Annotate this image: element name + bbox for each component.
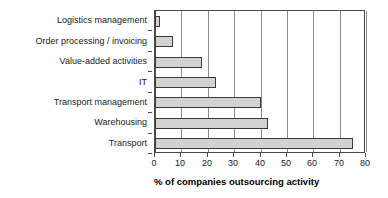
x-tick-label: 20 xyxy=(202,158,212,168)
bar-row xyxy=(155,117,364,129)
category-tick xyxy=(148,51,152,52)
category-tick xyxy=(148,112,152,113)
bar-row xyxy=(155,36,364,48)
x-tick-30 xyxy=(233,153,234,157)
category-axis-labels: Logistics managementOrder processing / i… xyxy=(0,10,151,153)
x-tick-40 xyxy=(260,153,261,157)
x-tick-10 xyxy=(180,153,181,157)
x-tick-50 xyxy=(286,153,287,157)
x-tick-20 xyxy=(207,153,208,157)
bar-chart-figure: Logistics managementOrder processing / i… xyxy=(0,0,388,198)
bar-row xyxy=(155,97,364,109)
bar-row xyxy=(155,15,364,27)
bar xyxy=(155,36,173,47)
bars-series xyxy=(155,11,364,152)
category-label: Transport management xyxy=(54,97,147,107)
x-tick-0 xyxy=(154,153,155,157)
category-tick xyxy=(148,71,152,72)
bar xyxy=(155,16,160,27)
x-tick-label: 0 xyxy=(151,158,156,168)
x-tick-80 xyxy=(365,153,366,157)
bar-row xyxy=(155,77,364,89)
x-tick-60 xyxy=(312,153,313,157)
x-tick-label: 70 xyxy=(334,158,344,168)
gridline-80 xyxy=(366,11,367,152)
category-label: Value-added activities xyxy=(60,56,147,66)
category-tick xyxy=(148,30,152,31)
category-label: IT xyxy=(139,77,147,87)
x-tick-label: 30 xyxy=(228,158,238,168)
bar xyxy=(155,138,353,149)
x-tick-70 xyxy=(339,153,340,157)
bar xyxy=(155,118,268,129)
category-label: Order processing / invoicing xyxy=(35,36,147,46)
x-tick-label: 80 xyxy=(360,158,370,168)
x-axis-title: % of companies outsourcing activity xyxy=(154,176,388,187)
category-tick xyxy=(148,133,152,134)
category-label: Transport xyxy=(109,138,147,148)
x-tick-label: 50 xyxy=(281,158,291,168)
category-label: Warehousing xyxy=(94,117,147,127)
x-tick-label: 60 xyxy=(307,158,317,168)
plot-area xyxy=(154,10,365,153)
category-label: Logistics management xyxy=(57,15,147,25)
bar xyxy=(155,97,261,108)
bar xyxy=(155,77,216,88)
x-tick-label: 10 xyxy=(175,158,185,168)
bar-row xyxy=(155,138,364,150)
category-tick xyxy=(148,153,152,154)
x-tick-label: 40 xyxy=(255,158,265,168)
x-axis: 01020304050607080 xyxy=(154,153,365,173)
bar xyxy=(155,57,202,68)
category-tick xyxy=(148,92,152,93)
bar-row xyxy=(155,56,364,68)
